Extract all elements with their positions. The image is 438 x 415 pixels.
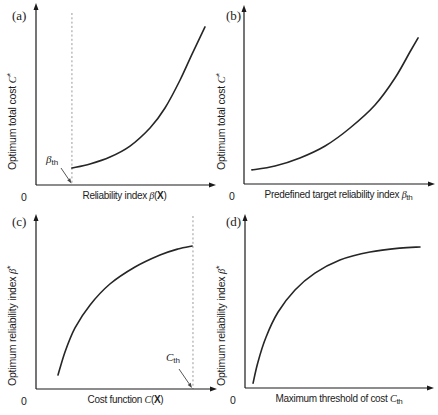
panel-a-x-axis-arrowhead xyxy=(209,183,216,188)
panel-b-tag: (b) xyxy=(226,9,241,24)
panel-c-y-axis-label: Optimum reliability index β* xyxy=(5,266,19,386)
panel-c-x-axis-arrowhead xyxy=(210,387,217,392)
panel-a-curve xyxy=(72,27,205,168)
panel-a-y-axis-arrowhead xyxy=(34,3,39,10)
panel-d-origin-label: 0 xyxy=(230,394,236,406)
panel-a-annotation-arrow xyxy=(61,168,69,179)
panel-a-y-axis-label: Optimum total cost C* xyxy=(5,73,19,170)
panel-c-threshold-annotation: Cth xyxy=(166,351,180,365)
panel-a-annotation-arrow-arrowhead xyxy=(67,178,71,183)
panel-d-x-axis-label: Maximum threshold of cost Cth xyxy=(245,393,433,406)
panel-b-origin-label: 0 xyxy=(229,190,235,202)
panel-b-y-axis-arrowhead xyxy=(242,5,247,12)
panel-c-annotation-arrow-arrowhead xyxy=(188,383,192,388)
panel-c-annotation-arrow xyxy=(179,369,189,384)
panel-c-y-axis-arrowhead xyxy=(34,214,39,221)
panel-a-x-axis-label: Reliability index β(X) xyxy=(36,190,213,202)
panel-d-x-axis-arrowhead xyxy=(427,386,434,391)
panel-b-x-axis-arrowhead xyxy=(428,182,435,187)
panel-d-curve xyxy=(253,247,420,383)
panel-d-tag: (d) xyxy=(226,215,241,230)
panel-a-tag: (a) xyxy=(12,9,26,24)
panel-d-y-axis-label: Optimum reliability index β* xyxy=(214,266,228,386)
panel-b-y-axis-label: Optimum total cost C* xyxy=(214,73,228,170)
panel-c-x-axis-label: Cost function C(X) xyxy=(36,394,215,406)
panel-b-curve xyxy=(252,38,418,170)
panel-d-y-axis-arrowhead xyxy=(243,214,248,221)
panel-a-origin-label: 0 xyxy=(21,191,27,203)
panel-c-tag: (c) xyxy=(12,215,26,230)
panel-b-x-axis-label: Predefined target reliability index βth xyxy=(244,189,433,202)
panel-a-threshold-annotation: βth xyxy=(46,153,58,167)
panel-c-origin-label: 0 xyxy=(21,395,27,407)
